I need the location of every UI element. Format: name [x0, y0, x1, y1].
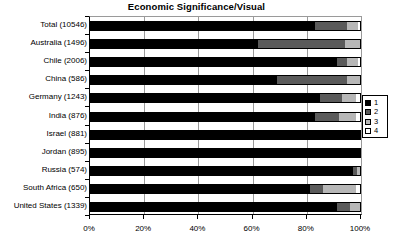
bar-segment: [347, 21, 358, 31]
bar-segment: [356, 112, 361, 122]
bar-segment: [90, 202, 337, 212]
bar-row: [90, 202, 361, 212]
bar-segment: [356, 184, 361, 194]
y-axis-label: Australia (1496): [0, 38, 87, 47]
bar-segment: [342, 93, 356, 103]
bar-segment: [360, 166, 361, 176]
chart-container: Economic Significance/Visual Total (1054…: [0, 0, 393, 241]
x-axis-tick: [252, 215, 253, 219]
bar-row: [90, 130, 361, 140]
y-axis-label: Total (10546): [0, 20, 87, 29]
legend-item: 1: [365, 98, 387, 107]
bar-segment: [323, 184, 356, 194]
legend-swatch: [365, 128, 371, 134]
y-axis-label: Russia (574): [0, 165, 87, 174]
bar-segment: [90, 21, 315, 31]
bar-segment: [277, 75, 347, 85]
y-axis-label: Israel (881): [0, 129, 87, 138]
legend-label: 3: [374, 118, 378, 126]
bar-segment: [360, 148, 361, 158]
bar-row: [90, 112, 361, 122]
bar-segment: [315, 112, 339, 122]
x-axis-label: 40%: [177, 224, 217, 233]
bar-segment: [90, 130, 360, 140]
x-axis-label: 60%: [232, 224, 272, 233]
bar-segment: [310, 184, 324, 194]
bar-segment: [339, 112, 355, 122]
bar-segment: [356, 93, 361, 103]
y-axis-label: India (876): [0, 111, 87, 120]
bar-group: [90, 17, 361, 214]
y-axis-label: Jordan (895): [0, 147, 87, 156]
bar-segment: [347, 57, 358, 67]
chart-title: Economic Significance/Visual: [0, 1, 393, 12]
x-axis-tick: [360, 215, 361, 219]
legend-item: 3: [365, 117, 387, 126]
y-axis-label: Germany (1243): [0, 92, 87, 101]
bar-row: [90, 166, 361, 176]
x-axis-label: 20%: [123, 224, 163, 233]
bar-row: [90, 39, 361, 49]
bar-segment: [90, 93, 320, 103]
y-axis-label: China (586): [0, 74, 87, 83]
legend-swatch: [365, 109, 371, 115]
legend-item: 4: [365, 127, 387, 136]
bar-row: [90, 75, 361, 85]
bar-segment: [358, 57, 361, 67]
legend-label: 2: [374, 108, 378, 116]
bar-segment: [337, 57, 348, 67]
y-axis-label: South Africa (650): [0, 183, 87, 192]
x-axis-tick: [143, 215, 144, 219]
legend-item: 2: [365, 108, 387, 117]
chart-legend: 1234: [362, 95, 388, 138]
bar-row: [90, 184, 361, 194]
bar-segment: [90, 184, 310, 194]
bar-segment: [360, 130, 361, 140]
bar-segment: [258, 39, 345, 49]
bar-row: [90, 148, 361, 158]
legend-label: 1: [374, 99, 378, 107]
bar-segment: [90, 166, 353, 176]
x-axis-tick: [89, 215, 90, 219]
bar-row: [90, 57, 361, 67]
y-axis-label: Chile (2006): [0, 56, 87, 65]
bar-row: [90, 21, 361, 31]
x-axis-label: 100%: [340, 224, 380, 233]
x-axis-tick: [197, 215, 198, 219]
legend-label: 4: [374, 127, 378, 135]
bar-segment: [358, 21, 361, 31]
bar-segment: [90, 148, 360, 158]
x-axis-tick: [306, 215, 307, 219]
bar-segment: [345, 39, 361, 49]
bar-segment: [320, 93, 342, 103]
x-axis-label: 0%: [69, 224, 109, 233]
legend-swatch: [365, 100, 371, 106]
bar-segment: [337, 202, 351, 212]
bar-segment: [90, 57, 337, 67]
bar-row: [90, 93, 361, 103]
y-axis-label: United States (1339): [0, 201, 87, 210]
bar-segment: [350, 202, 359, 212]
bar-segment: [347, 75, 361, 85]
legend-swatch: [365, 119, 371, 125]
plot-area: [89, 16, 362, 215]
bar-segment: [315, 21, 348, 31]
bar-segment: [90, 39, 258, 49]
bar-segment: [360, 202, 361, 212]
x-axis-label: 80%: [286, 224, 326, 233]
bar-segment: [90, 112, 315, 122]
bar-segment: [90, 75, 277, 85]
